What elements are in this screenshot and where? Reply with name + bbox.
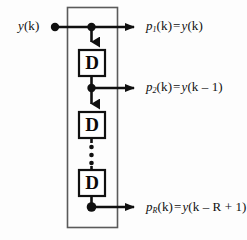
ellipsis-dot-2 — [89, 153, 94, 158]
output-label-2: p2(k)=y(k – 1) — [146, 80, 223, 95]
input-signal-arg: (k) — [24, 18, 39, 33]
delay-line-diagram: D D D y(k) p1(k)=y(k) p2(k)=y(k – 1) pR(… — [0, 0, 247, 240]
output-r-expr-arg: (k – R + 1) — [188, 199, 246, 214]
output-1-arg: (k) — [157, 18, 172, 33]
output-1-expr-arg: (k) — [187, 18, 202, 33]
output-2-symbol: p — [146, 79, 153, 94]
ellipsis-dot-3 — [89, 161, 94, 166]
output-1-equals: = — [172, 18, 181, 33]
output-2-equals: = — [172, 79, 181, 94]
delay-block-2-letter: D — [79, 112, 105, 138]
output-label-r: pR(k)=y(k – R + 1) — [146, 200, 247, 215]
input-terminal-dot — [51, 23, 59, 31]
output-2-arg: (k) — [157, 79, 172, 94]
output-1-symbol: p — [146, 18, 153, 33]
output-2-expr-arg: (k – 1) — [187, 79, 222, 94]
output-r-equals: = — [173, 199, 182, 214]
output-r-arg: (k) — [158, 199, 173, 214]
junction-dot-2 — [87, 84, 95, 92]
delay-block-3-letter: D — [79, 170, 105, 196]
output-label-1: p1(k)=y(k) — [146, 19, 203, 34]
delay-block-1-letter: D — [79, 50, 105, 76]
output-r-symbol: p — [146, 199, 153, 214]
junction-dot-3 — [87, 202, 97, 212]
input-signal-label: y(k) — [18, 19, 39, 32]
junction-dot-1 — [87, 23, 95, 31]
ellipsis-dot-1 — [89, 145, 94, 150]
